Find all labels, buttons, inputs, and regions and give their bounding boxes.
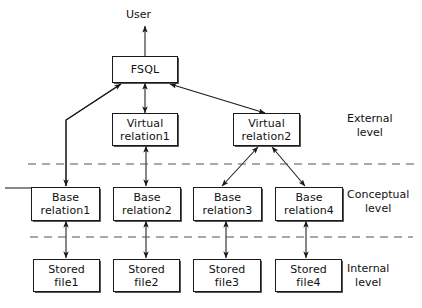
level-label-conceptual-line1: Conceptual [347, 188, 409, 202]
user-label: User [126, 8, 151, 21]
level-label-internal: Internal level [347, 262, 389, 290]
edge-vrel2-to-brel4 [272, 147, 305, 186]
node-base-relation1[interactable]: Base relation1 [31, 187, 100, 221]
node-virtual-relation2[interactable]: Virtual relation2 [233, 113, 300, 146]
level-label-external: External level [347, 112, 393, 140]
node-stored-file1-line1: Stored [48, 263, 85, 276]
node-base-relation2[interactable]: Base relation2 [113, 187, 181, 221]
node-base-relation1-line2: relation1 [41, 204, 91, 217]
node-base-relation3[interactable]: Base relation3 [193, 187, 262, 221]
node-stored-file2-line2: file2 [134, 276, 158, 289]
node-fsql[interactable]: FSQL [112, 56, 178, 83]
node-stored-file3[interactable]: Stored file3 [193, 259, 261, 292]
node-stored-file3-line2: file3 [215, 276, 239, 289]
node-stored-file4-line2: file4 [296, 276, 320, 289]
level-label-external-line1: External [347, 112, 393, 126]
node-virtual-relation2-line2: relation2 [242, 130, 292, 143]
node-base-relation4[interactable]: Base relation4 [275, 187, 343, 221]
node-base-relation3-line2: relation3 [203, 204, 253, 217]
node-stored-file1[interactable]: Stored file1 [33, 259, 100, 292]
node-stored-file1-line2: file1 [54, 276, 78, 289]
node-virtual-relation1[interactable]: Virtual relation1 [112, 113, 178, 146]
edge-vrel2-to-brel3 [222, 147, 258, 186]
level-label-conceptual: Conceptual level [347, 188, 409, 216]
node-stored-file4[interactable]: Stored file4 [275, 259, 342, 292]
node-stored-file2[interactable]: Stored file2 [113, 259, 180, 292]
node-base-relation3-line1: Base [214, 191, 241, 204]
node-fsql-line1: FSQL [131, 63, 159, 76]
node-virtual-relation1-line2: relation1 [120, 130, 170, 143]
level-label-internal-line1: Internal [347, 262, 389, 276]
node-virtual-relation1-line1: Virtual [127, 117, 164, 130]
edge-fsql-to-vrel2 [170, 84, 265, 113]
node-stored-file4-line1: Stored [290, 263, 327, 276]
node-virtual-relation2-line1: Virtual [248, 117, 285, 130]
node-base-relation1-line1: Base [52, 191, 79, 204]
node-base-relation4-line2: relation4 [284, 204, 334, 217]
level-label-external-line2: level [347, 126, 393, 140]
architecture-diagram: User FSQL Virtual relation1 Virtual rela… [0, 0, 422, 308]
node-stored-file3-line1: Stored [209, 263, 246, 276]
node-stored-file2-line1: Stored [128, 263, 165, 276]
node-base-relation4-line1: Base [295, 191, 322, 204]
level-label-conceptual-line2: level [347, 202, 409, 216]
level-label-internal-line2: level [347, 276, 389, 290]
node-base-relation2-line2: relation2 [122, 204, 172, 217]
node-base-relation2-line1: Base [133, 191, 160, 204]
